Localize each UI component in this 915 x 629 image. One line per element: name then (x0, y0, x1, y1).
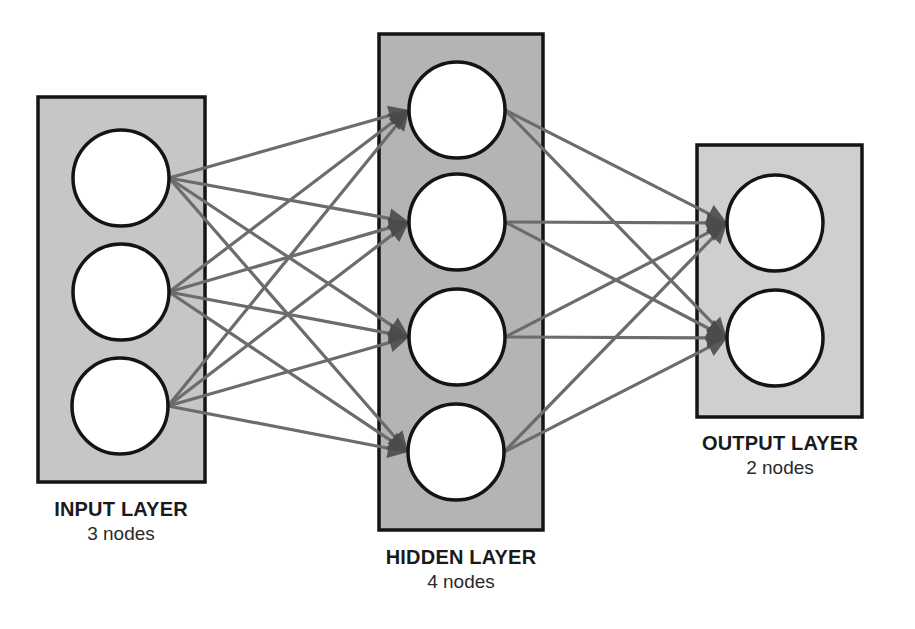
connection-edge (505, 337, 707, 338)
connection-edge (505, 222, 707, 223)
hidden-node-1 (409, 62, 505, 158)
output-layer-node-count: 2 nodes (660, 455, 900, 481)
hidden-node-3 (409, 289, 505, 385)
input-node-3 (72, 358, 168, 454)
input-layer-node-count: 3 nodes (21, 521, 221, 547)
hidden-node-4 (408, 404, 504, 500)
output-layer-title: OUTPUT LAYER (660, 431, 900, 455)
hidden-node-2 (409, 174, 505, 270)
input-layer-title: INPUT LAYER (21, 497, 221, 521)
output-node-2 (727, 290, 823, 386)
output-node-1 (727, 175, 823, 271)
hidden-layer-title: HIDDEN LAYER (341, 545, 581, 569)
output-layer-label: OUTPUT LAYER 2 nodes (660, 431, 900, 481)
input-layer-label: INPUT LAYER 3 nodes (21, 497, 221, 547)
input-node-1 (73, 130, 169, 226)
hidden-layer-node-count: 4 nodes (341, 569, 581, 595)
hidden-layer-label: HIDDEN LAYER 4 nodes (341, 545, 581, 595)
input-node-2 (73, 244, 169, 340)
